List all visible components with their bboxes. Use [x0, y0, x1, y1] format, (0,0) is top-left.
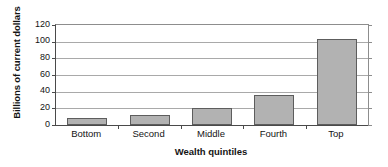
plot-area	[55, 24, 369, 126]
x-axis-title: Wealth quintiles	[55, 146, 367, 157]
bar-slot	[118, 25, 180, 125]
bar-slot	[306, 25, 368, 125]
bar-chart-figure: Billions of current dollars 020406080100…	[0, 0, 388, 167]
bars-group	[56, 25, 368, 125]
y-axis-tickmark-right	[368, 58, 372, 59]
x-axis-tick-label: Middle	[180, 128, 242, 140]
x-axis-tick-label: Second	[117, 128, 179, 140]
bar-slot	[56, 25, 118, 125]
y-axis-tickmark-right	[368, 25, 372, 26]
bar[interactable]	[192, 108, 232, 125]
bar[interactable]	[67, 118, 107, 125]
y-axis-tick-label-group: 020406080100120	[24, 24, 50, 124]
bar[interactable]	[130, 115, 170, 125]
y-axis-tickmark-right	[368, 42, 372, 43]
bar[interactable]	[317, 39, 357, 125]
x-axis-tick-label: Fourth	[242, 128, 304, 140]
y-axis-tick-label: 40	[24, 86, 50, 95]
x-axis-tick-label-group: BottomSecondMiddleFourthTop	[55, 128, 367, 142]
y-axis-tickmark-right	[368, 92, 372, 93]
bar-slot	[181, 25, 243, 125]
bar-slot	[243, 25, 305, 125]
y-axis-tick-label: 60	[24, 70, 50, 79]
y-axis-tick-label: 20	[24, 103, 50, 112]
y-axis-tickmark	[52, 125, 56, 126]
y-axis-tick-label: 120	[24, 20, 50, 29]
y-axis-tickmark-right	[368, 75, 372, 76]
y-axis-tickmark-right	[368, 108, 372, 109]
y-axis-tick-label: 100	[24, 36, 50, 45]
x-axis-tick-label: Bottom	[55, 128, 117, 140]
x-axis-tick-label: Top	[305, 128, 367, 140]
y-axis-tickmark-right	[368, 125, 372, 126]
y-axis-tick-label: 0	[24, 120, 50, 129]
y-axis-title: Billions of current dollars	[11, 3, 22, 123]
bar[interactable]	[254, 95, 294, 125]
y-axis-tick-label: 80	[24, 53, 50, 62]
